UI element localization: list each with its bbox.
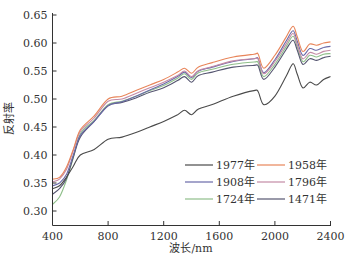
- legend: 1977年1958年1908年1796年1724年1471年: [185, 158, 327, 206]
- legend-item: 1796年: [257, 175, 327, 189]
- y-tick-label: 0.50: [23, 93, 48, 106]
- x-tick-label: 800: [98, 230, 119, 243]
- legend-label: 1471年: [288, 192, 327, 206]
- reflectance-chart: 0.300.350.400.450.500.550.600.65 4008001…: [0, 0, 345, 262]
- x-tick-label: 400: [42, 230, 63, 243]
- legend-item: 1908年: [185, 175, 255, 189]
- legend-item: 1977年: [185, 158, 255, 172]
- legend-label: 1796年: [288, 175, 327, 189]
- legend-item: 1471年: [257, 192, 327, 206]
- y-tick-label: 0.40: [23, 149, 48, 162]
- legend-item: 1724年: [185, 192, 255, 206]
- y-tick-label: 0.65: [23, 9, 48, 22]
- legend-label: 1724年: [216, 192, 255, 206]
- x-tick-label: 2400: [317, 230, 345, 243]
- y-tick-label: 0.35: [23, 177, 48, 190]
- y-tick-label: 0.55: [23, 65, 48, 78]
- series-line-1958: [53, 26, 331, 179]
- legend-label: 1977年: [216, 158, 255, 172]
- x-ticks: 4008001200160020002400: [42, 221, 345, 243]
- legend-label: 1908年: [216, 175, 255, 189]
- y-axis-title: 反射率: [2, 102, 16, 135]
- y-ticks: 0.300.350.400.450.500.550.600.65: [23, 9, 57, 218]
- y-tick-label: 0.30: [23, 205, 48, 218]
- legend-label: 1958年: [288, 158, 327, 172]
- y-tick-label: 0.45: [23, 121, 48, 134]
- y-tick-label: 0.60: [23, 37, 48, 50]
- legend-item: 1958年: [257, 158, 327, 172]
- x-axis-title: 波长/nm: [169, 242, 213, 255]
- x-tick-label: 2000: [261, 230, 289, 243]
